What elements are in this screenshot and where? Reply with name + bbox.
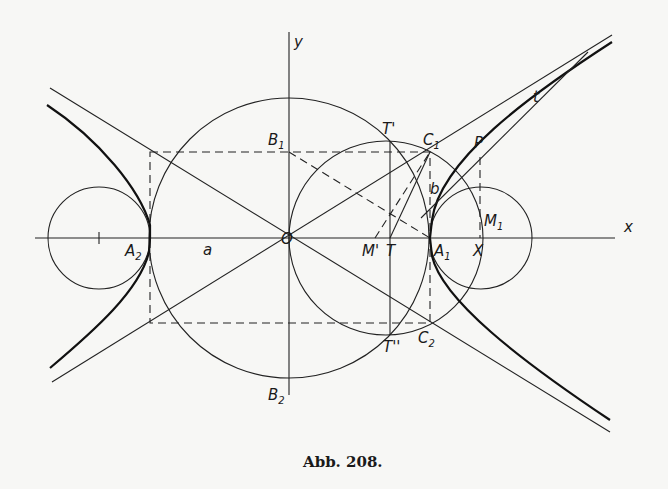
label-t-double-prime: T'' [383,338,400,356]
label-p: P [474,134,484,152]
label-b: b [430,180,440,198]
label-c2: C2 [418,329,435,349]
label-m1: M1 [484,212,503,232]
hyperbola-construction-diagram: y x O B1 B2 A2 A1 C1 C2 M1 a b t P X T M… [0,0,668,489]
label-t: t [533,88,540,106]
label-a1: A1 [433,242,451,262]
x-axis-label: x [623,218,633,236]
label-m-prime: M' [362,242,379,260]
label-c1: C1 [423,131,440,151]
hyperbola-right-branch [430,42,612,420]
label-a: a [203,241,212,259]
label-b1: B1 [268,131,285,151]
asymptote-positive [52,35,612,382]
label-a2: A2 [124,242,142,262]
label-t-point: T [386,242,397,260]
y-axis-label: y [293,33,304,51]
label-b2: B2 [268,386,285,406]
line-t-c1 [390,152,430,238]
label-t-prime: T' [382,120,395,138]
figure-caption: Abb. 208. [302,453,383,471]
asymptote-negative [50,88,610,432]
label-x-point: X [472,242,484,260]
origin-label: O [281,230,293,248]
